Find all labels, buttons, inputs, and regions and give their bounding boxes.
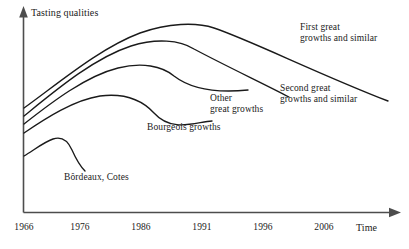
x-tick-label-1996: 1996 [248,222,278,232]
x-axis-arrowhead [389,208,401,217]
annotation-second-great-growths: Second great growths and similar [280,83,357,105]
x-axis [24,208,402,217]
annotation-bourgeois-growths: Bourgeois growths [147,122,221,133]
annotation-first-great-growths-line1: First great [300,22,377,33]
annotation-second-great-growths-line2: growths and similar [280,94,357,105]
annotation-bordeaux-cotes: Bôrdeaux, Cotes [64,172,129,183]
annotation-other-great-growths-line2: great growths [210,104,263,115]
y-axis-title: Tasting qualities [31,7,98,18]
x-tick-label-1976: 1976 [65,222,95,232]
x-tick-label-2006: 2006 [309,222,339,232]
curve-bordeaux-cotes [24,138,85,171]
annotation-other-great-growths-line1: Other [210,93,263,104]
annotation-first-great-growths-line2: growths and similar [300,33,377,44]
y-axis [19,6,28,213]
annotation-bordeaux-cotes-line1: Bôrdeaux, Cotes [64,172,129,183]
x-tick-label-1966: 1966 [9,222,39,232]
x-tick-label-1991: 1991 [187,222,217,232]
tasting-qualities-chart: Tasting qualities Time 1966 1976 1986 19… [0,0,409,249]
annotation-first-great-growths: First great growths and similar [300,22,377,44]
y-axis-arrowhead [19,6,28,18]
x-axis-title: Time [356,222,377,233]
annotation-second-great-growths-line1: Second great [280,83,357,94]
annotation-bourgeois-growths-line1: Bourgeois growths [147,122,221,133]
x-tick-label-1986: 1986 [126,222,156,232]
annotation-other-great-growths: Other great growths [210,93,263,115]
